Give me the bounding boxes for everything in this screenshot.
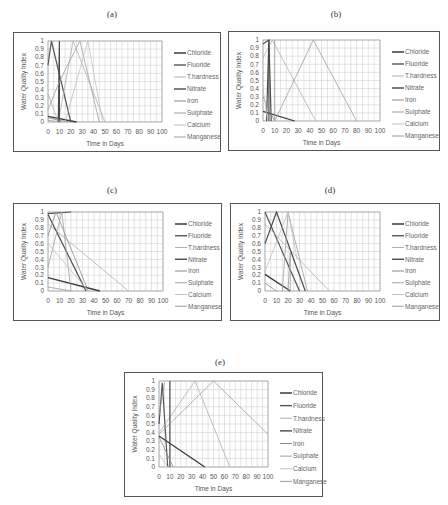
y-tick-label: 0.1 [252, 279, 261, 286]
chart-c: 00.10.20.30.40.50.60.70.80.9101020304050… [13, 203, 222, 321]
y-tick-label: 0.5 [252, 248, 261, 255]
legend-item: Nitrate [293, 427, 313, 434]
legend-item: T.hardness [188, 244, 221, 251]
x-tick-label: 20 [67, 128, 75, 135]
x-tick-label: 90 [365, 127, 373, 134]
x-tick-label: 100 [263, 473, 274, 480]
y-tick-label: 0 [40, 287, 44, 294]
y-tick-label: 0.4 [252, 256, 261, 263]
series-chloride [265, 274, 290, 291]
legend-item: Manganese [405, 303, 439, 311]
x-tick-label: 30 [294, 127, 302, 134]
y-tick-label: 0.1 [250, 109, 259, 116]
line-chart: 00.10.20.30.40.50.60.70.80.9101020304050… [14, 204, 221, 320]
legend-item: Nitrate [188, 256, 208, 263]
x-tick-label: 70 [124, 128, 132, 135]
legend-item: Manganese [405, 132, 439, 140]
legend-item: Iron [405, 96, 417, 103]
legend-item: T.hardness [187, 73, 220, 80]
y-axis-label: Water Quality Index [20, 222, 28, 280]
x-tick-label: 100 [375, 127, 386, 134]
legend-item: T.hardness [405, 244, 438, 251]
x-tick-label: 20 [177, 473, 185, 480]
y-tick-label: 0.2 [250, 101, 259, 108]
y-tick-label: 1 [40, 208, 44, 215]
y-tick-label: 0.9 [35, 216, 44, 223]
x-tick-label: 0 [263, 297, 267, 304]
grid [48, 212, 163, 291]
y-tick-label: 0.1 [35, 110, 44, 117]
y-tick-label: 0.7 [146, 403, 155, 410]
line-chart: 00.10.20.30.40.50.60.70.80.9101020304050… [125, 373, 322, 496]
y-tick-label: 0.5 [35, 78, 44, 85]
legend-item: Sulphate [405, 108, 431, 116]
x-tick-label: 0 [157, 473, 161, 480]
y-tick-label: 1 [151, 377, 155, 384]
legend-item: Calcium [188, 291, 211, 298]
legend-item: Calcium [293, 465, 316, 472]
x-tick-label: 30 [296, 297, 304, 304]
y-axis-label: Water Quality Index [235, 51, 243, 109]
y-tick-label: 0.2 [146, 446, 155, 453]
y-tick-label: 0.9 [252, 216, 261, 223]
x-tick-label: 60 [330, 127, 338, 134]
legend-item: Nitrate [187, 85, 207, 92]
panel-label-c: (c) [92, 185, 132, 195]
x-axis-label: Time in Days [304, 309, 342, 317]
legend-item: T.hardness [293, 415, 326, 422]
x-tick-label: 90 [147, 128, 155, 135]
x-tick-label: 100 [158, 297, 169, 304]
legend-item: Sulphate [405, 279, 431, 287]
x-tick-label: 50 [102, 297, 110, 304]
y-tick-label: 0 [40, 118, 44, 125]
legend-item: Iron [405, 267, 417, 274]
x-tick-label: 40 [90, 128, 98, 135]
y-tick-label: 0.8 [250, 52, 259, 59]
legend-item: Fluoride [405, 60, 429, 67]
x-tick-label: 80 [136, 128, 144, 135]
y-tick-label: 0.9 [250, 44, 259, 51]
x-axis-label: Time in Days [87, 309, 125, 317]
y-tick-label: 1 [40, 37, 44, 44]
y-tick-label: 0.5 [250, 77, 259, 84]
y-tick-label: 0.7 [250, 61, 259, 68]
legend-item: Calcium [187, 121, 210, 128]
grid [48, 41, 162, 122]
x-tick-label: 50 [318, 127, 326, 134]
x-tick-label: 30 [188, 473, 196, 480]
legend-item: Calcium [405, 291, 428, 298]
x-axis-label: Time in Days [195, 485, 233, 493]
legend: ChlorideFluorideT.hardnessNitrateIronSul… [174, 49, 221, 141]
x-tick-label: 60 [330, 297, 338, 304]
legend: ChlorideFluorideT.hardnessNitrateIronSul… [280, 389, 327, 485]
x-tick-label: 90 [365, 297, 373, 304]
legend-item: Manganese [188, 303, 222, 311]
x-tick-label: 40 [306, 127, 314, 134]
legend-item: Sulphate [187, 109, 213, 117]
y-tick-label: 0.2 [252, 271, 261, 278]
y-tick-label: 0.9 [146, 386, 155, 393]
y-tick-label: 0.1 [35, 279, 44, 286]
y-tick-label: 0.2 [35, 271, 44, 278]
series-calcium [159, 454, 168, 467]
legend-item: Nitrate [405, 84, 425, 91]
line-chart: 00.10.20.30.40.50.60.70.80.9101020304050… [231, 204, 439, 320]
x-tick-label: 80 [136, 297, 144, 304]
x-tick-label: 70 [341, 127, 349, 134]
y-tick-label: 0.4 [35, 256, 44, 263]
y-tick-label: 0.3 [35, 264, 44, 271]
y-axis-label: Water Quality Index [237, 222, 245, 280]
y-tick-label: 0.3 [250, 93, 259, 100]
x-tick-label: 30 [79, 297, 87, 304]
x-tick-label: 70 [125, 297, 133, 304]
x-tick-label: 20 [283, 127, 291, 134]
y-tick-label: 0.8 [146, 394, 155, 401]
x-tick-label: 10 [166, 473, 174, 480]
chart-b: 00.10.20.30.40.50.60.70.80.9101020304050… [228, 31, 440, 151]
legend-item: Manganese [293, 478, 327, 486]
legend-item: Fluoride [188, 232, 212, 239]
y-tick-label: 0.8 [35, 224, 44, 231]
legend-item: Chloride [187, 49, 212, 56]
y-tick-label: 0 [151, 463, 155, 470]
legend-item: T.hardness [405, 72, 438, 79]
